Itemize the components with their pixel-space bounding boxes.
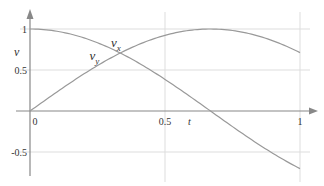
series-label-subscript: y: [94, 56, 99, 66]
y-tick-label-1: 0.5: [15, 65, 28, 76]
y-tick-label-0: 1: [22, 24, 27, 35]
y-axis-label: v: [14, 45, 20, 59]
tick-labels: 00.5110.5-0.5: [11, 24, 302, 158]
series-label-subscript: x: [116, 43, 121, 53]
grid-lines: [20, 12, 310, 182]
axes: [16, 9, 318, 176]
axis-labels: vxvytv: [14, 35, 191, 127]
y-tick-label-2: -0.5: [11, 147, 27, 158]
series-label-v-y: vy: [89, 48, 99, 66]
x-tick-label-2: 1: [298, 116, 303, 127]
velocity-chart: 00.5110.5-0.5 vxvytv: [0, 0, 324, 186]
x-axis-arrow-icon: [309, 108, 318, 115]
series-label-v-x: vx: [111, 35, 121, 53]
y-axis-arrow-icon: [27, 9, 34, 19]
x-tick-label-1: 0.5: [159, 116, 172, 127]
x-tick-label-0: 0: [33, 116, 38, 127]
x-axis-label: t: [188, 116, 191, 127]
